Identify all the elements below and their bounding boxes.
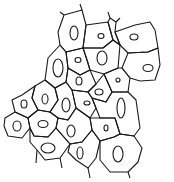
cell-nucleus	[21, 100, 27, 108]
cell	[66, 48, 90, 75]
junction-line	[80, 4, 82, 10]
cell-nucleus	[116, 78, 120, 82]
cell-nucleus	[117, 98, 125, 118]
cell-nucleus	[84, 101, 90, 105]
cell	[45, 45, 68, 88]
cell-membrane	[32, 80, 58, 112]
cell-membrane	[104, 68, 130, 92]
junction-line	[88, 168, 90, 178]
cell-membrane	[4, 112, 30, 138]
cell-membrane	[83, 40, 120, 74]
cell-nucleus	[98, 34, 104, 39]
cell-nucleus	[130, 34, 138, 40]
cell	[115, 22, 158, 53]
junction-line	[60, 158, 62, 168]
cell-nucleus	[42, 94, 48, 104]
cell-nucleus	[97, 51, 107, 65]
cell-membrane	[122, 48, 160, 81]
cell-nucleus	[41, 143, 55, 153]
cell-nucleus	[95, 89, 103, 95]
cell	[122, 48, 160, 81]
cell	[100, 134, 142, 172]
cell-nucleus	[77, 147, 83, 159]
cell-nucleus	[38, 121, 48, 128]
cell-nucleus	[104, 125, 108, 131]
cell	[32, 80, 58, 112]
cell-diagram	[0, 0, 174, 182]
cell	[4, 112, 30, 138]
cell-nucleus	[75, 58, 81, 63]
cell-membrane	[90, 118, 120, 141]
cell-nucleus	[76, 77, 82, 85]
cell	[58, 10, 86, 52]
cell	[90, 118, 120, 141]
cell-membrane	[58, 10, 86, 52]
cell-membrane	[115, 22, 158, 53]
cell-nucleus	[70, 26, 78, 40]
junction-line	[36, 150, 37, 163]
junction-line	[128, 172, 130, 178]
cell-nucleus	[13, 121, 21, 131]
cell	[104, 68, 130, 92]
junction-line	[116, 18, 120, 22]
cell	[92, 92, 140, 136]
junction-line	[60, 12, 64, 15]
cell-membrane	[100, 134, 142, 172]
cell-nucleus	[113, 146, 123, 162]
cell-nucleus	[62, 98, 70, 112]
cell-membrane	[66, 48, 90, 75]
cell-nucleus	[67, 125, 75, 137]
cell-membrane	[56, 108, 92, 144]
cell-membrane	[45, 45, 68, 88]
cell	[56, 108, 92, 144]
cell	[83, 40, 120, 74]
junction-line	[108, 12, 110, 18]
cells-layer	[4, 10, 160, 172]
cell-nucleus	[53, 59, 63, 77]
cell-membrane	[92, 92, 140, 136]
cell-nucleus	[143, 65, 153, 72]
cell-membrane	[30, 128, 70, 160]
cell	[30, 128, 70, 160]
